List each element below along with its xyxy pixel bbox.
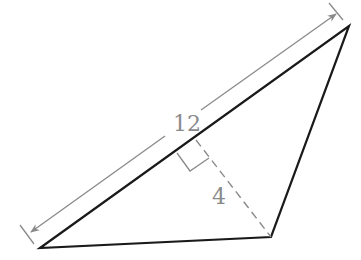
height-label: 4 (212, 184, 226, 209)
dimension-tick-left (20, 225, 34, 244)
right-angle-marker (177, 153, 209, 171)
base-label: 12 (173, 111, 201, 136)
altitude-dashed-line (196, 140, 271, 237)
triangle (40, 26, 349, 248)
triangle-diagram: 12 4 (0, 0, 361, 260)
